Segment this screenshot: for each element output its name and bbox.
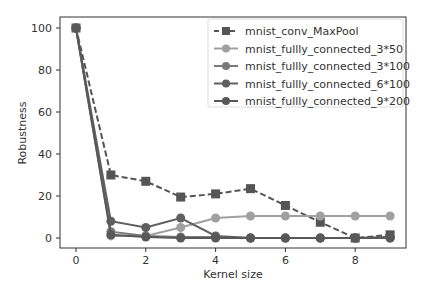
y-tick-label: 0 (45, 232, 52, 245)
x-tick-label: 8 (352, 254, 359, 267)
data-point-circle (281, 234, 290, 243)
x-axis-label: Kernel size (203, 268, 263, 281)
data-point-square (106, 171, 115, 180)
legend: mnist_conv_MaxPoolmnist_fullly_connected… (208, 19, 410, 108)
legend-marker-square (222, 27, 230, 35)
y-tick-label: 80 (38, 64, 52, 77)
legend-label: mnist_fullly_connected_9*200 (245, 95, 410, 108)
data-point-circle (316, 234, 325, 243)
y-tick-label: 40 (38, 148, 52, 161)
data-point-circle (211, 234, 220, 243)
data-point-square (211, 189, 220, 198)
y-tick-label: 100 (31, 22, 52, 35)
data-point-square (246, 184, 255, 193)
data-point-circle (246, 211, 255, 220)
x-tick-label: 6 (282, 254, 289, 267)
legend-marker-circle (222, 62, 230, 70)
legend-label: mnist_fullly_connected_3*100 (245, 60, 410, 73)
data-point-circle (351, 211, 360, 220)
legend-label: mnist_fullly_connected_3*50 (245, 43, 403, 56)
legend-marker-circle (222, 45, 230, 53)
data-point-circle (176, 223, 185, 232)
legend-marker-circle (222, 80, 230, 88)
y-axis-label: Robustness (16, 101, 29, 164)
y-axis-ticks: 020406080100 (31, 22, 60, 245)
data-point-circle (316, 211, 325, 220)
legend-label: mnist_conv_MaxPool (245, 25, 359, 38)
line-chart: 02468 020406080100 Kernel size Robustnes… (0, 0, 423, 295)
data-point-circle (386, 232, 395, 241)
legend-label: mnist_fullly_connected_6*100 (245, 78, 410, 91)
x-tick-label: 0 (73, 254, 80, 267)
data-point-circle (176, 234, 185, 243)
x-axis-ticks: 02468 (73, 248, 359, 267)
data-point-circle (281, 211, 290, 220)
data-point-circle (351, 234, 360, 243)
x-tick-label: 4 (212, 254, 219, 267)
data-point-circle (386, 211, 395, 220)
y-tick-label: 60 (38, 106, 52, 119)
x-tick-label: 2 (142, 254, 149, 267)
data-point-circle (141, 223, 150, 232)
data-point-circle (141, 232, 150, 241)
data-point-circle (176, 214, 185, 223)
data-point-square (281, 201, 290, 210)
legend-marker-circle (222, 97, 230, 105)
data-point-circle (106, 230, 115, 239)
y-tick-label: 20 (38, 190, 52, 203)
data-point-circle (246, 234, 255, 243)
data-point-square (141, 177, 150, 186)
data-point-square (176, 193, 185, 202)
data-point-circle (72, 24, 81, 33)
data-point-circle (211, 214, 220, 223)
